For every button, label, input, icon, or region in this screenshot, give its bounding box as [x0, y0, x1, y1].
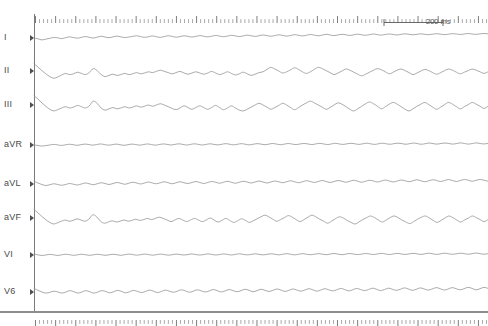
lead-label-aVR: aVR	[4, 140, 32, 149]
lead-label-III: III	[4, 100, 32, 109]
lead-label-V1: VI	[4, 250, 32, 259]
lead-label-V6: V6	[4, 287, 32, 296]
ecg-trace-V6	[34, 269, 488, 315]
lead-label-aVL: aVL	[4, 179, 32, 188]
lead-label-aVF: aVF	[4, 213, 32, 222]
lead-label-II: II	[4, 66, 32, 75]
lead-label-I: I	[4, 33, 32, 42]
ecg-figure: I II III aVR aVL aVF VI V6 200 ms	[0, 0, 488, 326]
